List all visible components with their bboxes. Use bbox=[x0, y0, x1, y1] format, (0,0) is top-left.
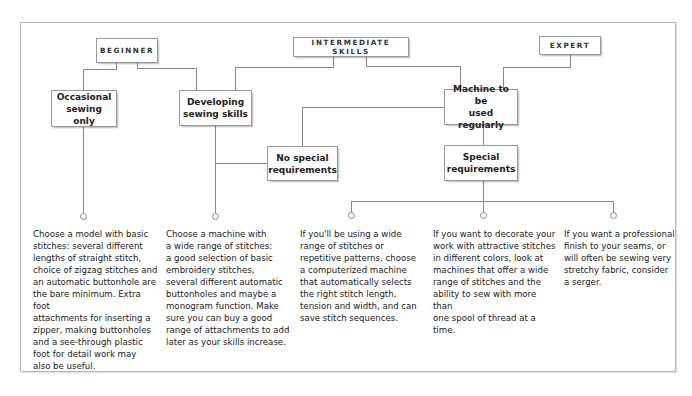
node-label-line: Developing bbox=[183, 96, 248, 108]
level-label: BEGINNER bbox=[100, 46, 154, 55]
text-line: If you want to decorate your bbox=[433, 228, 558, 240]
node-label-line: Machine to be bbox=[447, 83, 515, 107]
node-special-requirements: Special requirements bbox=[444, 145, 518, 181]
text-line: save stitch sequences. bbox=[300, 312, 425, 324]
connector bbox=[570, 55, 571, 67]
level-label: INTERMEDIATE SKILLS bbox=[294, 38, 408, 56]
text-line: one spool of thread at a time. bbox=[433, 312, 558, 336]
node-label-line: used regularly bbox=[447, 107, 515, 131]
text-line: and a see-through plastic bbox=[33, 336, 158, 348]
connector bbox=[235, 67, 334, 68]
node-label-line: Occasional bbox=[54, 91, 114, 103]
recommendation-decorative: If you want to decorate your work with a… bbox=[433, 228, 558, 336]
text-line: sure you can buy a good bbox=[166, 312, 291, 324]
level-label: EXPERT bbox=[550, 41, 590, 50]
connector bbox=[333, 57, 334, 67]
node-machine-regular: Machine to be used regularly bbox=[444, 89, 518, 125]
text-line: stitches: several different bbox=[33, 240, 158, 252]
endpoint-circle bbox=[348, 212, 355, 219]
connector bbox=[83, 127, 84, 213]
text-line: repetitive patterns, choose bbox=[300, 252, 425, 264]
text-line: stretchy fabric, consider bbox=[564, 264, 676, 276]
recommendation-computerized: If you'll be using a wide range of stitc… bbox=[300, 228, 425, 324]
text-line: foot for detail work may bbox=[33, 348, 158, 360]
text-line: a good selection of basic bbox=[166, 252, 291, 264]
connector bbox=[83, 69, 84, 90]
level-intermediate: INTERMEDIATE SKILLS bbox=[293, 37, 409, 57]
connector bbox=[483, 181, 484, 213]
node-label-line: No special bbox=[268, 152, 337, 164]
text-line: several different automatic bbox=[166, 276, 291, 288]
text-line: embroidery stitches, bbox=[166, 264, 291, 276]
connector bbox=[196, 68, 197, 90]
text-line: tension and width, and can bbox=[300, 300, 425, 312]
text-line: buttonholes and maybe a bbox=[166, 288, 291, 300]
connector bbox=[302, 107, 303, 146]
text-line: later as your skills increase. bbox=[166, 336, 291, 348]
text-line: Choose a model with basic bbox=[33, 228, 158, 240]
node-no-special-requirements: No special requirements bbox=[267, 146, 338, 181]
connector bbox=[366, 66, 461, 67]
text-line: a serger. bbox=[564, 276, 676, 288]
connector bbox=[503, 67, 571, 68]
text-line: machines that offer a wide bbox=[433, 264, 558, 276]
text-line: the right stitch length, bbox=[300, 288, 425, 300]
text-line: work with attractive stitches bbox=[433, 240, 558, 252]
text-line: monogram function. Make bbox=[166, 300, 291, 312]
connector bbox=[137, 68, 196, 69]
node-label-line: Special bbox=[447, 151, 516, 163]
connector bbox=[351, 201, 614, 202]
text-line: range of stitches and the bbox=[433, 276, 558, 288]
text-line: the bare minimum. Extra foot bbox=[33, 288, 158, 312]
recommendation-basic: Choose a model with basic stitches: seve… bbox=[33, 228, 158, 372]
text-line: range of attachments to add bbox=[166, 324, 291, 336]
text-line: zipper, making buttonholes bbox=[33, 324, 158, 336]
node-label-line: sewing only bbox=[54, 103, 114, 127]
node-label-line: sewing skills bbox=[183, 108, 248, 120]
recommendation-serger: If you want a professional finish to you… bbox=[564, 228, 676, 288]
text-line: attachments for inserting a bbox=[33, 312, 158, 324]
text-line: choice of zigzag stitches and bbox=[33, 264, 158, 276]
text-line: finish to your seams, or bbox=[564, 240, 676, 252]
connector bbox=[215, 126, 216, 213]
connector bbox=[302, 107, 444, 108]
endpoint-circle bbox=[212, 213, 219, 220]
endpoint-circle bbox=[480, 212, 487, 219]
text-line: Choose a machine with bbox=[166, 228, 291, 240]
node-label-line: requirements bbox=[268, 164, 337, 176]
endpoint-circle bbox=[80, 213, 87, 220]
connector bbox=[83, 69, 117, 70]
node-occasional-sewing: Occasional sewing only bbox=[51, 90, 117, 127]
text-line: If you'll be using a wide bbox=[300, 228, 425, 240]
text-line: an automatic buttonhole are bbox=[33, 276, 158, 288]
text-line: in different colors, look at bbox=[433, 252, 558, 264]
text-line: lengths of straight stitch, bbox=[33, 252, 158, 264]
text-line: a wide range of stitches: bbox=[166, 240, 291, 252]
text-line: will often be sewing very bbox=[564, 252, 676, 264]
text-line: If you want a professional bbox=[564, 228, 676, 240]
text-line: range of stitches or bbox=[300, 240, 425, 252]
text-line: also be useful. bbox=[33, 360, 158, 372]
node-developing-skills: Developing sewing skills bbox=[179, 90, 252, 126]
level-beginner: BEGINNER bbox=[96, 38, 158, 63]
text-line: that automatically selects bbox=[300, 276, 425, 288]
node-label-line: requirements bbox=[447, 163, 516, 175]
text-line: a computerized machine bbox=[300, 264, 425, 276]
text-line: ability to sew with more than bbox=[433, 288, 558, 312]
recommendation-wide-range: Choose a machine with a wide range of st… bbox=[166, 228, 291, 348]
connector bbox=[235, 67, 236, 90]
connector bbox=[215, 163, 267, 164]
level-expert: EXPERT bbox=[539, 36, 601, 55]
endpoint-circle bbox=[610, 212, 617, 219]
